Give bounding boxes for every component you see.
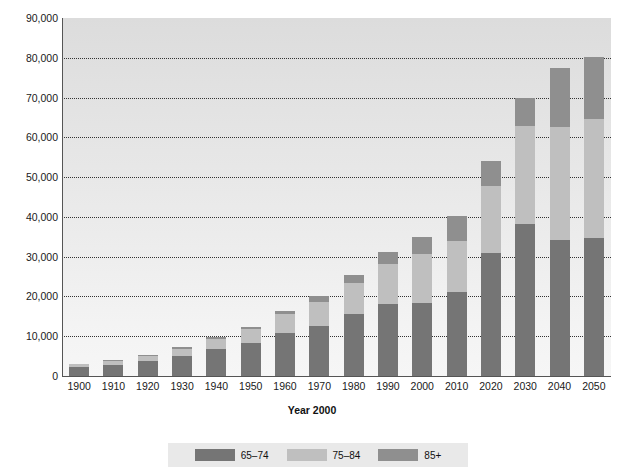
bar-segment[interactable]	[206, 339, 226, 349]
x-axis-labels: 1900191019201930194019501960197019801990…	[62, 380, 611, 398]
bar-segment[interactable]	[550, 68, 570, 127]
x-axis-tick-label: 1970	[308, 380, 331, 392]
x-axis-tick-label: 2040	[548, 380, 571, 392]
legend-item[interactable]: 65–74	[195, 449, 269, 461]
y-axis-tick-label: 70,000	[2, 92, 58, 104]
y-axis-tick-label: 60,000	[2, 131, 58, 143]
bar-group[interactable]	[206, 18, 226, 376]
bar-segment[interactable]	[584, 57, 604, 118]
x-axis-tick-label: 2030	[514, 380, 537, 392]
bar-segment[interactable]	[309, 302, 329, 326]
legend-label: 85+	[424, 450, 441, 461]
x-axis-tick-label: 2050	[582, 380, 605, 392]
bar-group[interactable]	[481, 18, 501, 376]
legend: 65–7475–8485+	[168, 443, 468, 467]
legend-swatch	[378, 449, 418, 461]
bar-segment[interactable]	[550, 127, 570, 240]
y-axis-tick-label: 0	[2, 370, 58, 382]
bar-segment[interactable]	[103, 365, 123, 376]
x-axis-tick-label: 1920	[136, 380, 159, 392]
x-axis-tick-label: 1930	[170, 380, 193, 392]
legend-swatch	[287, 449, 327, 461]
legend-label: 75–84	[333, 450, 361, 461]
bar-segment[interactable]	[447, 216, 467, 241]
x-axis-tick-label: 2010	[445, 380, 468, 392]
stacked-bar-chart: 010,00020,00030,00040,00050,00060,00070,…	[0, 0, 624, 476]
bar-group[interactable]	[378, 18, 398, 376]
bar-segment[interactable]	[378, 264, 398, 304]
bar-segment[interactable]	[481, 253, 501, 376]
bar-group[interactable]	[309, 18, 329, 376]
bar-segment[interactable]	[481, 161, 501, 186]
bar-segment[interactable]	[412, 237, 432, 254]
bar-segment[interactable]	[344, 283, 364, 314]
x-axis-tick-label: 1960	[273, 380, 296, 392]
bar-group[interactable]	[138, 18, 158, 376]
bar-group[interactable]	[275, 18, 295, 376]
x-axis-tick-label: 1900	[67, 380, 90, 392]
bar-segment[interactable]	[241, 329, 261, 342]
x-axis-line	[62, 376, 611, 377]
bar-segment[interactable]	[584, 238, 604, 376]
bar-segment[interactable]	[515, 98, 535, 127]
y-axis-tick-label: 50,000	[2, 171, 58, 183]
bar-series-container	[62, 18, 611, 376]
bar-segment[interactable]	[378, 252, 398, 264]
x-axis-tick-label: 1990	[376, 380, 399, 392]
bar-segment[interactable]	[69, 367, 89, 376]
bar-segment[interactable]	[309, 326, 329, 376]
bar-segment[interactable]	[344, 314, 364, 376]
x-axis-tick-label: 1980	[342, 380, 365, 392]
y-axis-tick-label: 90,000	[2, 12, 58, 24]
y-axis-tick-label: 10,000	[2, 330, 58, 342]
bar-segment[interactable]	[412, 254, 432, 303]
bar-segment[interactable]	[344, 275, 364, 284]
legend-item[interactable]: 85+	[378, 449, 441, 461]
x-axis-tick-label: 1940	[205, 380, 228, 392]
bar-group[interactable]	[103, 18, 123, 376]
bar-group[interactable]	[447, 18, 467, 376]
bar-group[interactable]	[69, 18, 89, 376]
bar-segment[interactable]	[515, 224, 535, 376]
y-axis-tick-label: 20,000	[2, 290, 58, 302]
bar-group[interactable]	[172, 18, 192, 376]
x-axis-title: Year 2000	[0, 404, 624, 416]
legend-label: 65–74	[241, 450, 269, 461]
bar-segment[interactable]	[378, 304, 398, 376]
bar-group[interactable]	[515, 18, 535, 376]
bar-segment[interactable]	[275, 314, 295, 332]
bar-segment[interactable]	[447, 292, 467, 376]
bar-segment[interactable]	[172, 349, 192, 356]
x-axis-tick-label: 1950	[239, 380, 262, 392]
bar-segment[interactable]	[481, 186, 501, 252]
bar-segment[interactable]	[515, 126, 535, 224]
legend-item[interactable]: 75–84	[287, 449, 361, 461]
x-axis-tick-label: 2000	[411, 380, 434, 392]
x-axis-tick-label: 1910	[102, 380, 125, 392]
bar-segment[interactable]	[241, 343, 261, 376]
bar-segment[interactable]	[447, 241, 467, 292]
bar-group[interactable]	[344, 18, 364, 376]
bar-group[interactable]	[584, 18, 604, 376]
bar-segment[interactable]	[412, 303, 432, 376]
x-axis-tick-label: 2020	[479, 380, 502, 392]
bar-group[interactable]	[550, 18, 570, 376]
bar-group[interactable]	[241, 18, 261, 376]
bar-segment[interactable]	[206, 349, 226, 376]
bar-segment[interactable]	[584, 119, 604, 238]
y-axis-tick-label: 80,000	[2, 52, 58, 64]
bar-group[interactable]	[412, 18, 432, 376]
y-axis-tick-label: 30,000	[2, 251, 58, 263]
bar-segment[interactable]	[275, 333, 295, 376]
bar-segment[interactable]	[138, 361, 158, 376]
bar-segment[interactable]	[550, 240, 570, 376]
legend-swatch	[195, 449, 235, 461]
y-axis-tick-label: 40,000	[2, 211, 58, 223]
bar-segment[interactable]	[172, 356, 192, 376]
